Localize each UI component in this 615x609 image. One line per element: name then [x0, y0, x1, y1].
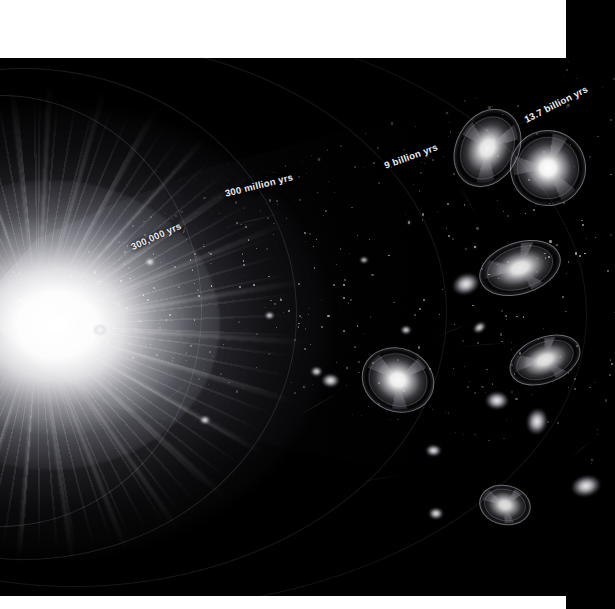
star-point: [517, 105, 519, 107]
star-point: [139, 321, 141, 323]
star-point: [549, 240, 551, 242]
blob-e: [426, 445, 441, 456]
star-point: [242, 388, 243, 389]
star-point: [39, 292, 40, 293]
star-point: [450, 131, 451, 132]
star-point: [568, 261, 569, 262]
star-point: [507, 215, 509, 217]
star-point: [312, 384, 313, 385]
star-point: [127, 245, 128, 246]
star-point: [196, 256, 197, 257]
star-point: [591, 459, 593, 461]
star-point: [327, 315, 330, 318]
star-point: [310, 344, 311, 345]
star-point: [31, 277, 32, 278]
blob-o: [200, 416, 210, 424]
space-background: 300,000 yrs300 million yrs9 billion yrs1…: [0, 0, 615, 609]
star-point: [348, 302, 350, 304]
star-point: [607, 270, 609, 272]
star-point: [172, 360, 173, 361]
star-point: [343, 330, 345, 332]
star-point: [334, 192, 335, 193]
star-point: [46, 297, 47, 298]
star-point: [388, 255, 389, 256]
star-point: [602, 87, 603, 88]
star-point: [208, 384, 209, 385]
star-point: [610, 234, 612, 236]
star-point: [455, 432, 456, 433]
star-point: [256, 367, 257, 368]
star-point: [15, 275, 17, 277]
cosmology-timeline-figure: 300,000 yrs300 million yrs9 billion yrs1…: [0, 0, 615, 609]
star-point: [168, 218, 169, 219]
star-point: [506, 319, 507, 320]
star-point: [52, 323, 54, 325]
star-point: [503, 211, 504, 212]
star-point: [432, 159, 434, 161]
star-point: [503, 438, 505, 440]
star-point: [475, 98, 476, 99]
star-point: [256, 248, 257, 249]
star-point: [55, 321, 57, 323]
star-point: [605, 399, 608, 402]
star-point: [48, 352, 50, 354]
star-point: [132, 357, 134, 359]
star-point: [243, 264, 245, 266]
star-point: [582, 224, 584, 226]
galaxy-upper-right-face: [510, 130, 586, 206]
star-point: [439, 314, 440, 315]
star-point: [30, 303, 31, 304]
star-point: [93, 312, 95, 314]
star-point: [515, 398, 517, 400]
star-point: [159, 327, 161, 329]
bottom-white-band: [0, 596, 566, 609]
star-point: [123, 263, 125, 265]
star-point: [317, 192, 318, 193]
star-point: [372, 274, 373, 275]
star-point: [579, 255, 581, 257]
star-point: [186, 352, 188, 354]
star-point: [574, 378, 576, 380]
star-point: [566, 105, 568, 107]
star-point: [18, 317, 19, 318]
blob-b: [486, 392, 508, 409]
star-point: [256, 333, 258, 335]
star-point: [611, 363, 612, 364]
star-point: [298, 176, 300, 178]
star-point: [566, 69, 568, 71]
star-point: [174, 266, 176, 268]
star-point: [150, 344, 151, 345]
star-point: [453, 173, 455, 175]
star-point: [183, 230, 185, 232]
star-point: [97, 359, 99, 361]
star-point: [464, 204, 466, 206]
star-point: [129, 343, 131, 345]
star-point: [35, 265, 37, 267]
star-point: [118, 303, 120, 305]
star-point: [501, 341, 502, 342]
blob-k: [265, 312, 274, 319]
star-point: [390, 419, 391, 420]
star-point: [474, 246, 476, 248]
star-point: [58, 288, 60, 290]
star-point: [18, 272, 20, 274]
star-point: [419, 308, 420, 309]
star-point: [574, 388, 576, 390]
star-point: [159, 323, 160, 324]
star-point: [610, 359, 612, 361]
star-point: [123, 232, 124, 233]
star-point: [76, 352, 78, 354]
star-point: [4, 329, 6, 331]
star-point: [311, 155, 312, 156]
star-point: [492, 383, 494, 385]
star-point: [197, 289, 199, 291]
star-point: [403, 149, 405, 151]
star-point: [511, 349, 512, 350]
star-point: [533, 209, 535, 211]
star-point: [344, 279, 346, 281]
star-point: [288, 310, 290, 312]
star-point: [291, 382, 292, 383]
star-point: [511, 391, 513, 393]
star-point: [19, 299, 21, 301]
star-point: [333, 284, 335, 286]
